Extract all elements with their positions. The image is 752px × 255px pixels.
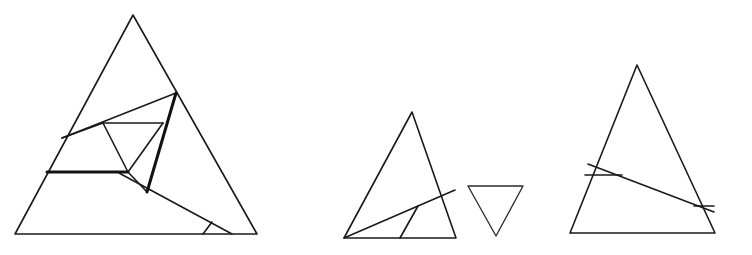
large-triangle-segment-left-slope-chord xyxy=(62,123,103,138)
inverted-small-triangle-group xyxy=(468,186,523,236)
large-triangle-outline xyxy=(15,15,257,234)
right-triangle-segment-left-to-right-diagonal xyxy=(588,164,714,212)
large-triangle-segment-inner-right-slant xyxy=(128,123,163,172)
large-triangle-group xyxy=(15,15,257,234)
right-triangle-outline xyxy=(570,65,715,233)
middle-triangle-segment-vertical-divider xyxy=(400,206,418,238)
middle-triangle-segment-base-diagonal xyxy=(344,190,455,238)
large-triangle-segment-long-base-diagonal xyxy=(119,173,232,234)
large-triangle-segment-mid-right-connector xyxy=(128,172,147,192)
middle-triangle-outline xyxy=(344,112,456,238)
large-triangle-segment-inner-left-slant xyxy=(103,123,128,172)
triangles-diagram xyxy=(0,0,752,255)
large-triangle-segment-bold-right-chord xyxy=(147,93,176,192)
large-triangle-segment-small-base-tick xyxy=(203,222,212,234)
inverted-small-triangle-outline xyxy=(468,186,523,236)
middle-triangle-group xyxy=(344,112,456,238)
right-triangle-group xyxy=(570,65,715,233)
figure-canvas xyxy=(0,0,752,255)
